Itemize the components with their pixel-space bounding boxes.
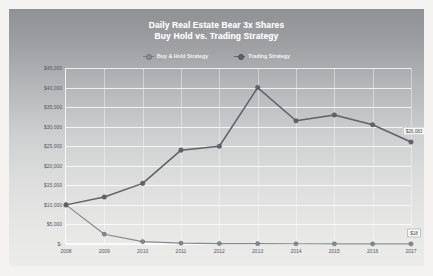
x-axis-labels: 2008200920102011201220132014201520162017 <box>66 248 411 260</box>
chart-subtitle-line-2: Buy Hold vs. Trading Strategy <box>9 31 424 42</box>
data-point-marker[interactable] <box>179 148 184 153</box>
data-point-marker[interactable] <box>370 122 375 127</box>
data-point-marker[interactable] <box>179 241 183 245</box>
plot-area: $18$26,083 <box>66 68 411 244</box>
data-point-marker[interactable] <box>102 195 107 200</box>
chart-frame: Daily Real Estate Bear 3x Shares Buy Hol… <box>9 9 424 266</box>
data-point-label: $26,083 <box>403 126 424 135</box>
data-point-marker[interactable] <box>102 232 106 236</box>
x-axis-tick-label: 2008 <box>60 248 71 254</box>
x-axis-tick-label: 2010 <box>137 248 148 254</box>
chart-title-line-1: Daily Real Estate Bear 3x Shares <box>9 20 424 31</box>
x-axis-tick-label: 2017 <box>405 248 416 254</box>
chart-legend: Buy & Hold Strategy Trading Strategy <box>9 53 424 59</box>
y-axis-tick-label: $35,000 <box>24 104 62 110</box>
x-axis-tick-label: 2014 <box>290 248 301 254</box>
vertical-gridline <box>411 68 412 244</box>
series-plot <box>66 68 411 244</box>
legend-item-trading[interactable]: Trading Strategy <box>234 53 290 59</box>
data-point-marker[interactable] <box>409 242 413 246</box>
legend-marker-buy-hold-icon <box>143 54 154 59</box>
data-point-marker[interactable] <box>332 113 337 118</box>
y-axis-tick-label: $10,000 <box>24 202 62 208</box>
data-point-marker[interactable] <box>256 242 260 246</box>
data-point-marker[interactable] <box>64 203 69 208</box>
chart-title: Daily Real Estate Bear 3x Shares Buy Hol… <box>9 20 424 42</box>
legend-label-trading: Trading Strategy <box>248 53 290 59</box>
x-axis-tick-label: 2011 <box>176 248 187 254</box>
data-point-marker[interactable] <box>294 242 298 246</box>
data-point-marker[interactable] <box>409 140 414 145</box>
legend-marker-trading-icon <box>234 54 245 59</box>
y-axis-tick-label: $30,000 <box>24 124 62 130</box>
data-point-marker[interactable] <box>294 119 299 124</box>
x-axis-tick-label: 2015 <box>329 248 340 254</box>
data-point-marker[interactable] <box>255 85 260 90</box>
legend-item-buy-hold[interactable]: Buy & Hold Strategy <box>143 53 208 59</box>
y-axis-tick-label: $15,000 <box>24 182 62 188</box>
y-axis-tick-label: $- <box>24 241 62 247</box>
data-point-marker[interactable] <box>217 144 222 149</box>
y-axis-tick-label: $20,000 <box>24 163 62 169</box>
x-axis-tick-label: 2012 <box>214 248 225 254</box>
data-point-marker[interactable] <box>332 242 336 246</box>
y-axis-tick-label: $40,000 <box>24 85 62 91</box>
legend-label-buy-hold: Buy & Hold Strategy <box>157 53 208 59</box>
data-point-label: $18 <box>407 228 421 237</box>
series-line <box>66 205 411 244</box>
series-line <box>66 88 411 205</box>
data-point-marker[interactable] <box>371 242 375 246</box>
x-axis-tick-label: 2013 <box>252 248 263 254</box>
y-axis-tick-label: $5,000 <box>24 221 62 227</box>
chart-screenshot: Daily Real Estate Bear 3x Shares Buy Hol… <box>0 0 433 276</box>
y-axis-tick-label: $25,000 <box>24 143 62 149</box>
y-axis-tick-label: $45,000 <box>24 65 62 71</box>
data-point-marker[interactable] <box>217 241 221 245</box>
x-axis-tick-label: 2016 <box>367 248 378 254</box>
x-axis-tick-label: 2009 <box>99 248 110 254</box>
data-point-marker[interactable] <box>140 181 145 186</box>
data-point-marker[interactable] <box>141 240 145 244</box>
